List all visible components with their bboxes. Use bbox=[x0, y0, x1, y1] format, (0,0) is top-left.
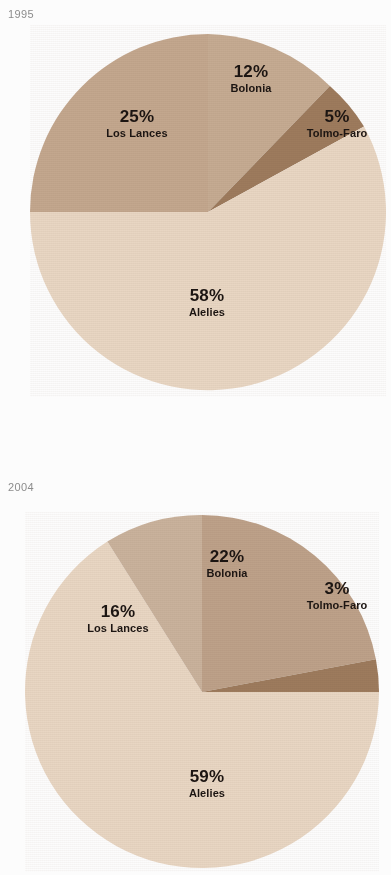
slice-value-alelies-1995: 58% bbox=[155, 287, 259, 305]
year-label-2004: 2004 bbox=[8, 481, 34, 493]
slice-name-los-lances-2004: Los Lances bbox=[57, 623, 179, 635]
slice-value-tolmo-faro-2004: 3% bbox=[289, 580, 385, 598]
slice-name-alelies-2004: Alelies bbox=[157, 788, 257, 800]
slice-label-los-lances-2004: 16% Los Lances bbox=[57, 603, 179, 634]
slice-label-tolmo-faro-1995: 5% Tolmo-Faro bbox=[288, 108, 386, 139]
slice-name-tolmo-faro-1995: Tolmo-Faro bbox=[288, 128, 386, 140]
slice-label-alelies-1995: 58% Alelies bbox=[155, 287, 259, 318]
slice-value-bolonia-1995: 12% bbox=[205, 63, 297, 81]
slice-label-bolonia-2004: 22% Bolonia bbox=[181, 548, 273, 579]
year-label-1995: 1995 bbox=[8, 8, 34, 20]
slice-name-los-lances-1995: Los Lances bbox=[76, 128, 198, 140]
slice-label-alelies-2004: 59% Alelies bbox=[157, 768, 257, 799]
slice-name-tolmo-faro-2004: Tolmo-Faro bbox=[289, 600, 385, 612]
slice-value-alelies-2004: 59% bbox=[157, 768, 257, 786]
pie-chart-figure: 1995 12% Bolonia 5% Tolmo-Faro 25% Los L… bbox=[0, 0, 391, 875]
slice-label-bolonia-1995: 12% Bolonia bbox=[205, 63, 297, 94]
slice-label-los-lances-1995: 25% Los Lances bbox=[76, 108, 198, 139]
slice-value-los-lances-2004: 16% bbox=[57, 603, 179, 621]
slice-name-bolonia-2004: Bolonia bbox=[181, 568, 273, 580]
slice-value-los-lances-1995: 25% bbox=[76, 108, 198, 126]
slice-label-tolmo-faro-2004: 3% Tolmo-Faro bbox=[289, 580, 385, 611]
slice-value-bolonia-2004: 22% bbox=[181, 548, 273, 566]
slice-name-bolonia-1995: Bolonia bbox=[205, 83, 297, 95]
slice-name-alelies-1995: Alelies bbox=[155, 307, 259, 319]
slice-value-tolmo-faro-1995: 5% bbox=[288, 108, 386, 126]
